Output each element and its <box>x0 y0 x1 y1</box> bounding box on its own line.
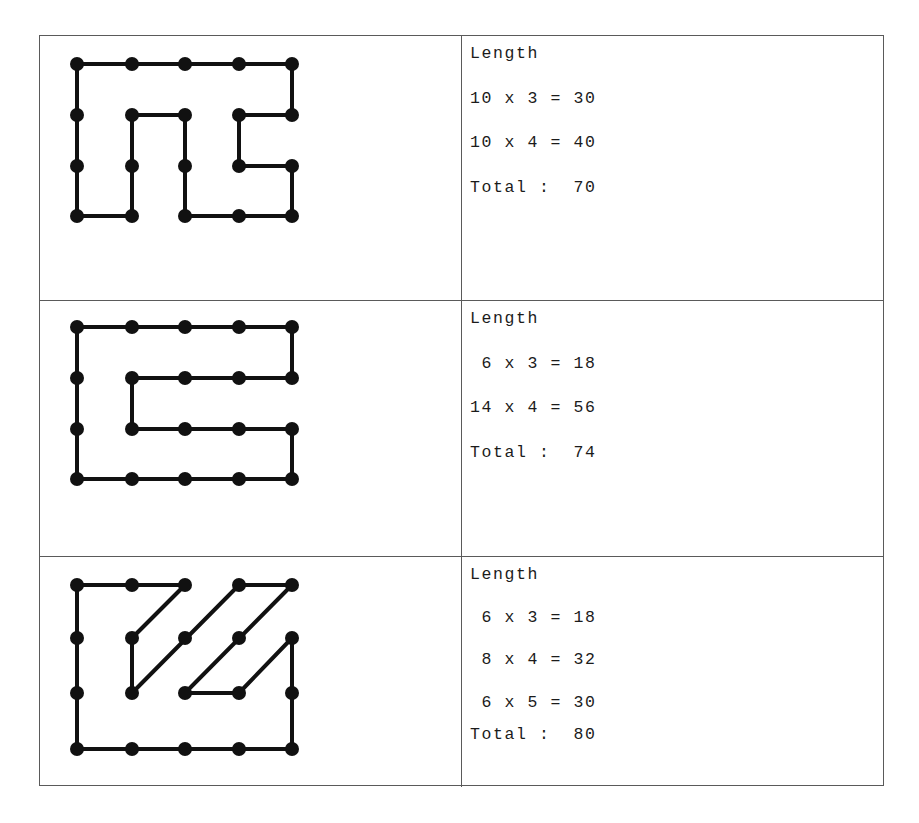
grid-dot <box>232 371 246 385</box>
grid-dot <box>285 371 299 385</box>
calculation-cell-1: Length 10 x 3 = 30 10 x 4 = 40 Total : 7… <box>462 36 883 300</box>
grid-dot <box>285 631 299 645</box>
grid-dot <box>125 472 139 486</box>
grid-dot <box>125 631 139 645</box>
calc-term-line: 6 x 5 = 30 <box>470 695 883 712</box>
table-row: Length 6 x 3 = 18 8 x 4 = 32 6 x 5 = 30 … <box>40 557 883 787</box>
grid-dot <box>70 371 84 385</box>
calculation-cell-2: Length 6 x 3 = 18 14 x 4 = 56 Total : 74 <box>462 301 883 556</box>
grid-dot <box>285 742 299 756</box>
calc-total-line: Total : 70 <box>470 180 883 197</box>
grid-dot <box>285 159 299 173</box>
grid-dot <box>285 320 299 334</box>
grid-dot <box>70 472 84 486</box>
figure-3-lines <box>77 585 292 749</box>
grid-dot <box>285 209 299 223</box>
grid-dot <box>285 472 299 486</box>
grid-dot <box>70 209 84 223</box>
grid-dot <box>232 209 246 223</box>
grid-dot <box>125 422 139 436</box>
grid-dot <box>232 578 246 592</box>
calc-term-line: 10 x 4 = 40 <box>470 135 883 152</box>
grid-dot <box>70 57 84 71</box>
grid-dot <box>70 742 84 756</box>
figure-2-dots <box>70 320 299 486</box>
grid-dot <box>125 371 139 385</box>
grid-dot <box>178 159 192 173</box>
calculation-cell-3: Length 6 x 3 = 18 8 x 4 = 32 6 x 5 = 30 … <box>462 557 883 787</box>
grid-dot <box>125 57 139 71</box>
grid-dot <box>178 108 192 122</box>
grid-dot <box>178 631 192 645</box>
table-row: Length 6 x 3 = 18 14 x 4 = 56 Total : 74 <box>40 301 883 557</box>
dot-grid-figure-1 <box>40 36 462 300</box>
grid-dot <box>125 742 139 756</box>
table-row: Length 10 x 3 = 30 10 x 4 = 40 Total : 7… <box>40 36 883 301</box>
grid-dot <box>232 108 246 122</box>
grid-dot <box>178 320 192 334</box>
calc-term-line: 14 x 4 = 56 <box>470 400 883 417</box>
grid-dot <box>178 371 192 385</box>
grid-dot <box>178 209 192 223</box>
grid-dot <box>232 320 246 334</box>
grid-dot <box>70 108 84 122</box>
grid-dot <box>178 472 192 486</box>
grid-dot <box>232 159 246 173</box>
grid-dot <box>125 108 139 122</box>
grid-dot <box>70 686 84 700</box>
grid-dot <box>70 320 84 334</box>
grid-dot <box>178 686 192 700</box>
figure-segment-diagonal <box>132 585 185 638</box>
grid-dot <box>70 578 84 592</box>
grid-dot <box>232 472 246 486</box>
calc-term-line: 6 x 3 = 18 <box>470 610 883 627</box>
calc-total-line: Total : 80 <box>470 727 883 744</box>
grid-dot <box>232 422 246 436</box>
grid-dot <box>285 686 299 700</box>
grid-dot <box>232 57 246 71</box>
grid-dot <box>178 57 192 71</box>
grid-dot <box>125 686 139 700</box>
grid-dot <box>178 578 192 592</box>
length-heading-1: Length <box>470 46 883 63</box>
calc-term-line: 6 x 3 = 18 <box>470 356 883 373</box>
calc-total-line: Total : 74 <box>470 445 883 462</box>
figure-cell-3 <box>40 557 462 787</box>
grid-dot <box>125 159 139 173</box>
length-heading-3: Length <box>470 567 883 584</box>
grid-dot <box>232 631 246 645</box>
figure-segment-diagonal <box>239 638 292 693</box>
length-heading-2: Length <box>470 311 883 328</box>
calc-term-line: 10 x 3 = 30 <box>470 91 883 108</box>
grid-dot <box>285 422 299 436</box>
figure-cell-2 <box>40 301 462 556</box>
calc-term-line: 8 x 4 = 32 <box>470 652 883 669</box>
figure-2-lines <box>77 327 292 479</box>
grid-dot <box>232 742 246 756</box>
figure-cell-1 <box>40 36 462 300</box>
grid-dot <box>125 209 139 223</box>
dot-grid-figure-2 <box>40 301 462 556</box>
worksheet-table: Length 10 x 3 = 30 10 x 4 = 40 Total : 7… <box>39 35 884 786</box>
grid-dot <box>70 159 84 173</box>
grid-dot <box>232 686 246 700</box>
figure-1-lines <box>77 64 292 216</box>
grid-dot <box>125 320 139 334</box>
grid-dot <box>70 631 84 645</box>
grid-dot <box>70 422 84 436</box>
grid-dot <box>285 108 299 122</box>
grid-dot <box>285 578 299 592</box>
grid-dot <box>125 578 139 592</box>
grid-dot <box>285 57 299 71</box>
dot-grid-figure-3 <box>40 557 462 787</box>
grid-dot <box>178 422 192 436</box>
grid-dot <box>178 742 192 756</box>
